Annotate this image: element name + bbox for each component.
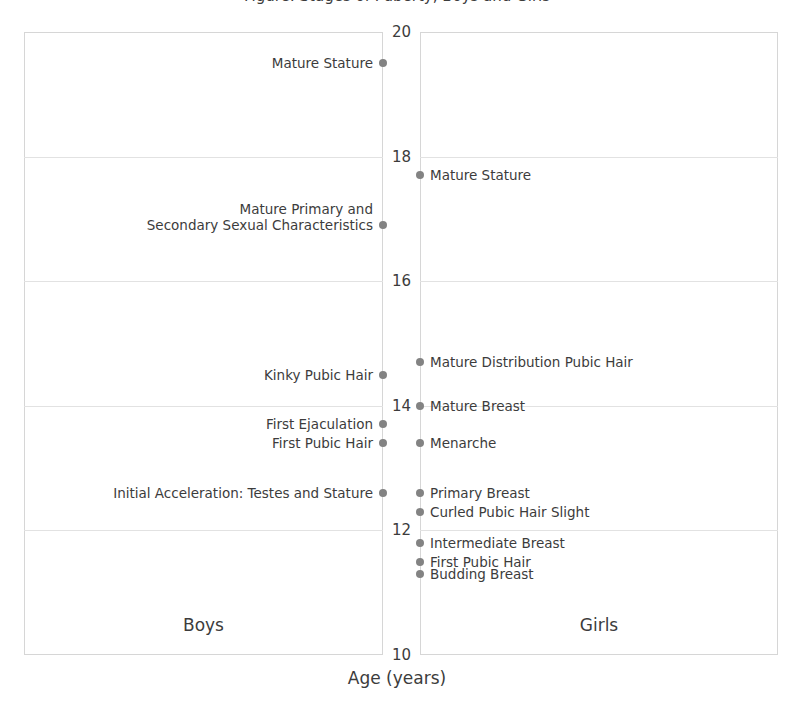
age-tick-14: 14	[383, 399, 420, 414]
x-axis-title: Age (years)	[0, 668, 794, 688]
event-label: Mature Stature	[272, 55, 373, 71]
event-label: Initial Acceleration: Testes and Stature	[113, 485, 373, 501]
event-marker	[379, 59, 387, 67]
age-tick-20: 20	[383, 25, 420, 40]
event-label: Menarche	[430, 435, 496, 451]
panel-boys	[24, 32, 383, 655]
event-label: Mature Stature	[430, 167, 531, 183]
event-marker	[379, 221, 387, 229]
age-tick-16: 16	[383, 274, 420, 289]
event-marker	[379, 420, 387, 428]
gridline-boys-12	[24, 530, 383, 531]
event-label: Curled Pubic Hair Slight	[430, 504, 589, 520]
event-label: Mature Breast	[430, 398, 525, 414]
event-label: First Ejaculation	[266, 416, 373, 432]
event-marker	[379, 439, 387, 447]
panel-caption-boys: Boys	[24, 615, 383, 635]
event-label: Mature Distribution Pubic Hair	[430, 354, 633, 370]
event-marker	[416, 489, 424, 497]
event-marker	[416, 570, 424, 578]
event-label: First Pubic Hair	[272, 435, 373, 451]
event-marker	[416, 402, 424, 410]
gridline-girls-18	[420, 157, 778, 158]
age-tick-18: 18	[383, 150, 420, 165]
event-marker	[379, 371, 387, 379]
event-label: Mature Primary and Secondary Sexual Char…	[147, 201, 373, 233]
gridline-boys-18	[24, 157, 383, 158]
event-label: Primary Breast	[430, 485, 530, 501]
gridline-girls-12	[420, 530, 778, 531]
gridline-boys-16	[24, 281, 383, 282]
panel-caption-girls: Girls	[420, 615, 778, 635]
event-marker	[379, 489, 387, 497]
puberty-stages-chart: 201816141210 Mature StatureMature Primar…	[0, 0, 794, 702]
event-label: Budding Breast	[430, 566, 534, 582]
gridline-girls-16	[420, 281, 778, 282]
event-label: Intermediate Breast	[430, 535, 565, 551]
gridline-boys-14	[24, 406, 383, 407]
event-marker	[416, 539, 424, 547]
event-marker	[416, 508, 424, 516]
event-marker	[416, 558, 424, 566]
age-tick-10: 10	[383, 648, 420, 663]
event-label: Kinky Pubic Hair	[264, 367, 373, 383]
age-tick-12: 12	[383, 523, 420, 538]
